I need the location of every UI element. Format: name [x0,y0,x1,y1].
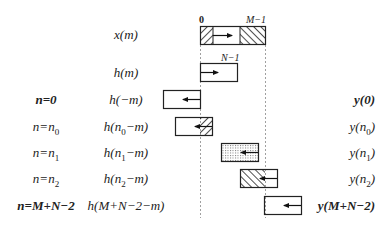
signal-h-n0-box [176,117,214,136]
label-h-minus-m: h(−m) [71,93,181,107]
label-h-n1-m: h(n1−m) [71,146,181,165]
signal-x-box [200,26,266,45]
signal-h-n1-box [221,143,259,162]
tick-zero: 0 [199,15,204,25]
label-x-m: x(m) [71,28,181,42]
label-y-n0: y(n0) [265,120,375,139]
convolution-diagram [0,0,392,228]
label-h-n0-m: h(n0−m) [71,120,181,139]
label-y-n1: y(n1) [265,146,375,165]
tick-n-minus-1: N−1 [221,53,239,63]
label-y-n2: y(n2) [265,172,375,191]
label-h-last: h(M+N−2−m) [71,199,181,213]
tick-m-minus-1: M−1 [246,15,266,25]
label-y-0: y(0) [265,93,375,107]
label-h-n2-m: h(n2−m) [71,172,181,191]
label-y-last: y(M+N−2) [265,199,375,213]
label-h-m: h(m) [71,66,181,80]
signal-h-box [201,64,238,82]
